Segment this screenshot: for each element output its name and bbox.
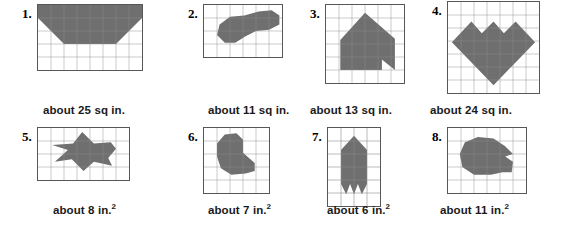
problem-1-caption: about 25 sq in. <box>43 104 125 116</box>
problem-8-gridlines <box>448 128 526 193</box>
problem-3: 3. <box>310 4 405 84</box>
problem-1: 1. <box>22 4 143 71</box>
problem-1-number: 1. <box>22 4 37 20</box>
problem-2-caption: about 11 sq in. <box>208 104 289 116</box>
problem-8-grid <box>447 127 527 194</box>
problem-2: 2. <box>188 4 283 58</box>
problem-4: 4. <box>432 1 540 94</box>
problem-7-caption-text: about 6 in. <box>327 204 386 216</box>
problem-7-grid-svg <box>328 128 380 206</box>
problem-1-grid-svg <box>38 5 142 70</box>
problem-5-caption-text: about 8 in. <box>53 204 112 216</box>
problem-5-grid <box>37 127 130 181</box>
problem-8: 8. <box>432 127 527 194</box>
problem-2-figure: 2. <box>188 4 283 58</box>
problem-8-shape <box>459 137 512 175</box>
problem-3-caption: about 13 sq in. <box>310 104 392 116</box>
problem-1-figure: 1. <box>22 4 143 71</box>
problem-6-grid <box>203 127 270 194</box>
problem-2-shape <box>217 10 279 43</box>
problem-4-grid-svg <box>448 2 539 93</box>
problem-7-caption-exponent: 2 <box>386 202 391 211</box>
problem-4-caption: about 24 sq in. <box>430 104 512 116</box>
problem-7-caption: about 6 in.2 <box>327 204 390 216</box>
problem-3-shape <box>340 13 395 70</box>
problem-2-grid <box>203 4 283 58</box>
problem-3-number: 3. <box>310 4 325 20</box>
problem-1-grid <box>37 4 143 71</box>
problem-4-figure: 4. <box>432 1 540 94</box>
problem-8-number: 8. <box>432 127 447 143</box>
worksheet-page: 1. <box>0 0 567 235</box>
problem-6-caption-exponent: 2 <box>267 202 272 211</box>
problem-6-figure: 6. <box>188 127 270 194</box>
problem-3-figure: 3. <box>310 4 405 84</box>
problem-6-caption-text: about 7 in. <box>208 204 267 216</box>
problem-8-caption: about 11 in.2 <box>440 204 509 216</box>
problem-5-number: 5. <box>22 127 37 143</box>
problem-4-number: 4. <box>432 1 447 17</box>
problem-7-gridlines <box>328 128 380 206</box>
problem-3-grid <box>325 4 405 84</box>
problem-7-number: 7. <box>312 127 327 143</box>
problem-7-figure: 7. <box>312 127 381 207</box>
problem-5-figure: 5. <box>22 127 130 181</box>
problem-5-grid-svg <box>38 128 129 180</box>
problem-2-grid-svg <box>204 5 282 57</box>
problem-6-grid-svg <box>204 128 269 193</box>
problem-5-caption: about 8 in.2 <box>53 204 116 216</box>
problem-5-caption-exponent: 2 <box>112 202 117 211</box>
problem-8-grid-svg <box>448 128 526 193</box>
problem-4-shape <box>452 22 535 86</box>
problem-8-caption-exponent: 2 <box>504 202 509 211</box>
problem-7: 7. <box>312 127 381 207</box>
problem-7-grid <box>327 127 381 207</box>
problem-4-grid <box>447 1 540 94</box>
problem-6-number: 6. <box>188 127 203 143</box>
problem-6: 6. <box>188 127 270 194</box>
problem-3-grid-svg <box>326 5 404 83</box>
problem-8-figure: 8. <box>432 127 527 194</box>
problem-8-caption-text: about 11 in. <box>440 204 504 216</box>
problem-5: 5. <box>22 127 130 181</box>
problem-6-caption: about 7 in.2 <box>208 204 271 216</box>
problem-5-shape <box>52 132 116 171</box>
problem-3-gridlines <box>326 5 404 83</box>
problem-2-number: 2. <box>188 4 203 20</box>
